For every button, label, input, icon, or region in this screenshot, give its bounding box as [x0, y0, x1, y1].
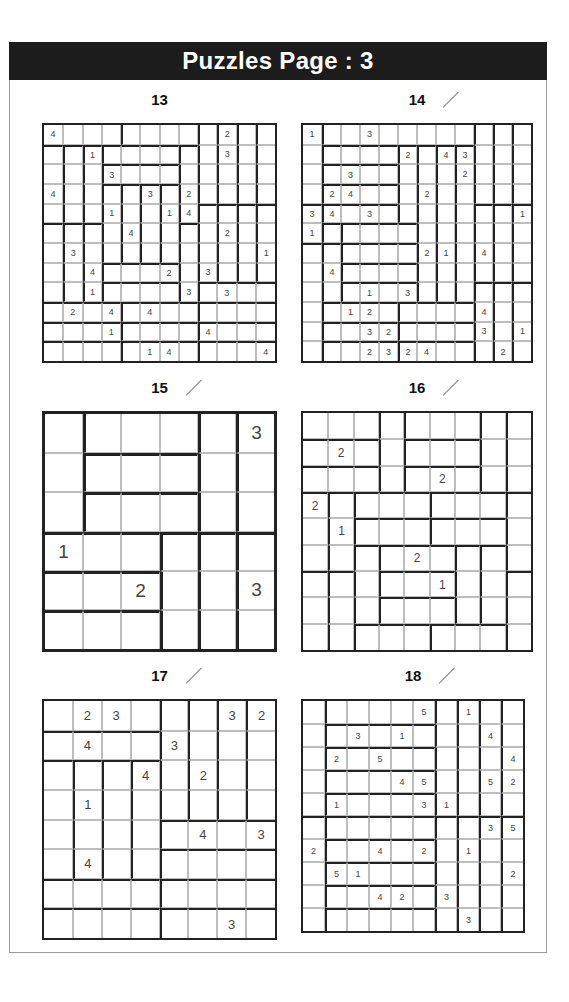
grid-cell[interactable] [457, 747, 479, 770]
grid-cell[interactable] [237, 164, 256, 184]
grid-cell[interactable]: 3 [102, 164, 121, 184]
grid-cell[interactable] [179, 164, 198, 184]
grid-cell[interactable] [404, 466, 429, 492]
grid-cell[interactable] [131, 849, 160, 879]
grid-cell[interactable] [44, 263, 63, 283]
grid-cell[interactable] [404, 597, 429, 623]
grid-cell[interactable] [474, 184, 493, 204]
grid-cell[interactable]: 4 [102, 302, 121, 322]
grid-cell[interactable] [44, 908, 73, 938]
grid-cell[interactable] [44, 282, 63, 302]
grid-cell[interactable] [413, 862, 435, 885]
grid-cell[interactable] [479, 862, 501, 885]
grid-cell[interactable] [303, 793, 325, 816]
grid-cell[interactable] [121, 322, 140, 342]
grid-cell[interactable]: 1 [436, 243, 455, 263]
grid-cell[interactable] [303, 413, 328, 439]
grid-cell[interactable] [63, 341, 82, 361]
grid-cell[interactable] [455, 597, 480, 623]
grid-cell[interactable] [455, 223, 474, 243]
grid-cell[interactable] [457, 724, 479, 747]
grid-cell[interactable]: 4 [322, 204, 341, 224]
grid-cell[interactable] [493, 322, 512, 342]
grid-cell[interactable] [198, 243, 217, 263]
grid-cell[interactable] [391, 839, 413, 862]
grid-cell[interactable] [198, 164, 217, 184]
grid-cell[interactable] [121, 145, 140, 165]
grid-cell[interactable] [121, 282, 140, 302]
grid-cell[interactable] [322, 125, 341, 145]
grid-cell[interactable] [379, 243, 398, 263]
grid-cell[interactable] [256, 145, 275, 165]
grid-cell[interactable] [493, 282, 512, 302]
grid-cell[interactable]: 2 [217, 223, 236, 243]
grid-cell[interactable] [493, 184, 512, 204]
grid-cell[interactable] [328, 492, 353, 518]
grid-cell[interactable] [303, 747, 325, 770]
grid-cell[interactable]: 3 [236, 571, 274, 610]
grid-cell[interactable] [131, 701, 160, 731]
grid-cell[interactable] [325, 724, 347, 747]
grid-cell[interactable] [501, 793, 523, 816]
grid-cell[interactable] [237, 223, 256, 243]
grid-cell[interactable] [83, 125, 102, 145]
grid-cell[interactable]: 3 [360, 322, 379, 342]
grid-cell[interactable] [328, 597, 353, 623]
grid-cell[interactable]: 2 [417, 243, 436, 263]
grid-cell[interactable] [102, 223, 121, 243]
grid-cell[interactable] [341, 341, 360, 361]
grid-cell[interactable] [198, 453, 236, 492]
grid-cell[interactable] [303, 263, 322, 283]
grid-cell[interactable]: 4 [322, 263, 341, 283]
grid-cell[interactable]: 1 [160, 204, 179, 224]
grid-cell[interactable] [360, 184, 379, 204]
grid-cell[interactable] [83, 414, 121, 453]
grid-cell[interactable] [493, 263, 512, 283]
grid-cell[interactable] [237, 322, 256, 342]
grid-cell[interactable] [160, 532, 198, 571]
grid-cell[interactable] [379, 439, 404, 465]
grid-cell[interactable]: 5 [325, 862, 347, 885]
grid-cell[interactable]: 3 [102, 701, 131, 731]
grid-cell[interactable]: 1 [303, 223, 322, 243]
grid-cell[interactable] [435, 839, 457, 862]
grid-cell[interactable] [45, 492, 83, 531]
grid-cell[interactable]: 1 [435, 793, 457, 816]
grid-cell[interactable] [237, 263, 256, 283]
grid-cell[interactable]: 2 [455, 164, 474, 184]
grid-cell[interactable] [325, 770, 347, 793]
grid-cell[interactable] [303, 439, 328, 465]
grid-cell[interactable] [455, 243, 474, 263]
grid-cell[interactable] [217, 302, 236, 322]
grid-cell[interactable]: 2 [360, 302, 379, 322]
grid-cell[interactable] [493, 223, 512, 243]
grid-cell[interactable] [404, 492, 429, 518]
grid-cell[interactable] [474, 223, 493, 243]
grid-cell[interactable] [455, 413, 480, 439]
grid-cell[interactable] [303, 624, 328, 650]
grid-cell[interactable] [379, 492, 404, 518]
grid-cell[interactable] [217, 341, 236, 361]
grid-cell[interactable] [436, 125, 455, 145]
grid-cell[interactable] [44, 701, 73, 731]
grid-cell[interactable] [121, 125, 140, 145]
grid-cell[interactable] [179, 125, 198, 145]
grid-cell[interactable] [417, 263, 436, 283]
grid-cell[interactable] [379, 263, 398, 283]
grid-cell[interactable] [121, 302, 140, 322]
grid-cell[interactable] [236, 532, 274, 571]
grid-cell[interactable] [328, 545, 353, 571]
grid-cell[interactable] [236, 610, 274, 649]
grid-cell[interactable]: 3 [236, 414, 274, 453]
grid-cell[interactable] [44, 204, 63, 224]
grid-cell[interactable] [160, 414, 198, 453]
grid-cell[interactable] [480, 466, 505, 492]
grid-cell[interactable] [83, 532, 121, 571]
grid-cell[interactable]: 1 [140, 341, 159, 361]
grid-cell[interactable] [501, 908, 523, 931]
grid-cell[interactable]: 3 [217, 701, 246, 731]
grid-cell[interactable] [83, 610, 121, 649]
grid-cell[interactable] [354, 624, 379, 650]
grid-cell[interactable] [83, 184, 102, 204]
grid-cell[interactable] [237, 282, 256, 302]
